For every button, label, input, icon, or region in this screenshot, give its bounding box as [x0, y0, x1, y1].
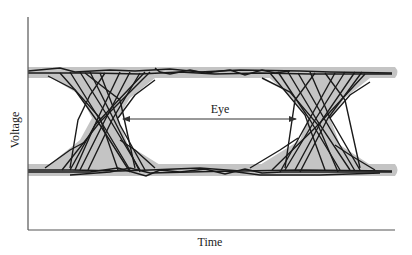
eye-label: Eye [211, 102, 230, 116]
x-axis-label: Time [198, 235, 223, 249]
envelope-shading [28, 67, 398, 176]
axes [28, 17, 395, 230]
eye-diagram: Eye Time Voltage [0, 0, 412, 255]
y-axis-label: Voltage [8, 112, 22, 148]
